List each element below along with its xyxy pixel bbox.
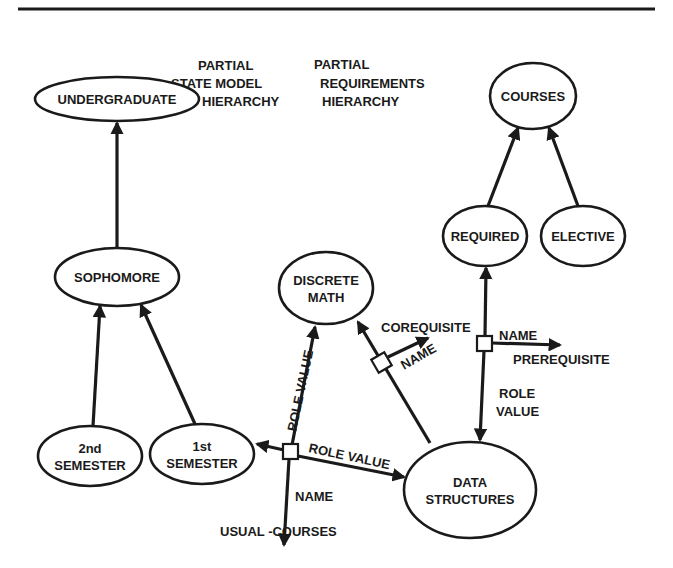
node-courses: COURSES: [490, 63, 576, 129]
node-label: UNDERGRADUATE: [58, 92, 177, 107]
edge-box-1st-semester: [257, 444, 284, 450]
node-sophomore: SOPHOMORE: [55, 248, 179, 306]
label-role-value-vertical: ROLE VALUE: [284, 348, 316, 432]
heading-requirements: PARTIAL REQUIREMENTS HIERARCHY: [314, 57, 425, 109]
node-label: REQUIRED: [451, 229, 520, 244]
heading-req-line-2: REQUIREMENTS: [320, 76, 425, 91]
edge-box-data-structures-down: [480, 351, 484, 440]
node-1st-semester: 1stSEMESTER: [150, 424, 254, 484]
node-label: SOPHOMORE: [74, 270, 160, 285]
node-label: DATA: [453, 475, 488, 490]
nodes: UNDERGRADUATESOPHOMORE2ndSEMESTER1stSEME…: [35, 63, 625, 538]
label-role-right-2: VALUE: [496, 404, 539, 419]
node-ellipse: [404, 442, 536, 538]
node-label: SEMESTER: [166, 456, 238, 471]
node-label: COURSES: [501, 89, 566, 104]
node-ellipse: [150, 424, 254, 484]
node-label: MATH: [308, 290, 345, 305]
label-name-prerequisite: NAME: [499, 328, 538, 343]
edge-elective-courses: [549, 128, 578, 206]
node-required: REQUIRED: [443, 206, 527, 266]
node-ellipse: [279, 252, 373, 324]
node-label: 2nd: [78, 441, 101, 456]
label-name-bottom: NAME: [295, 489, 334, 504]
node-label: ELECTIVE: [551, 229, 615, 244]
relation-corequisite: [358, 322, 430, 443]
node-data-structures: DATASTRUCTURES: [404, 442, 536, 538]
relation-box-prerequisite: [477, 336, 492, 351]
label-role-right-1: ROLE: [499, 386, 535, 401]
node-2nd-semester: 2ndSEMESTER: [38, 426, 142, 486]
node-discrete-math: DISCRETEMATH: [279, 252, 373, 324]
heading-state-line-3: HIERARCHY: [202, 94, 280, 109]
heading-state-line-1: PARTIAL: [198, 58, 253, 73]
label-name-corequisite: NAME: [398, 340, 439, 372]
label-usual-courses: USUAL -COURSES: [220, 524, 337, 539]
node-label: STRUCTURES: [426, 492, 515, 507]
relation-box-usual-courses: [283, 444, 298, 459]
edge-box-prerequisite: [492, 343, 560, 345]
heading-req-line-3: HIERARCHY: [322, 94, 400, 109]
label-corequisite: COREQUISITE: [381, 320, 471, 335]
edge-data-structures-discrete-math: [358, 322, 430, 443]
edge-box-required: [485, 268, 486, 336]
node-undergraduate: UNDERGRADUATE: [35, 77, 199, 121]
edge-1st-semester-sophomore: [141, 305, 195, 424]
edge-2nd-semester-sophomore: [93, 306, 100, 426]
node-ellipse: [38, 426, 142, 486]
label-prerequisite: PREREQUISITE: [513, 352, 610, 367]
semantic-network-diagram: PARTIAL STATE MODEL HIERARCHY PARTIAL RE…: [0, 0, 673, 568]
heading-req-line-1: PARTIAL: [314, 57, 369, 72]
node-label: SEMESTER: [54, 458, 126, 473]
edge-required-courses: [488, 128, 518, 206]
node-label: DISCRETE: [293, 273, 359, 288]
node-elective: ELECTIVE: [541, 206, 625, 266]
node-label: 1st: [193, 439, 212, 454]
